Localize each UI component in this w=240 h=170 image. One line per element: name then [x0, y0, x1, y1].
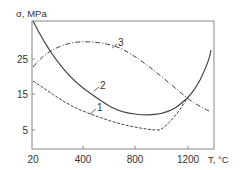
curve-2-label: 2: [100, 80, 106, 91]
y-tick-label-5: 5: [22, 125, 28, 136]
curve-2: [33, 21, 211, 115]
curve-1: [33, 81, 188, 130]
chart: 25 15 5 20 400 800 1200 σ, MPa T, °C 3 2…: [0, 0, 240, 170]
curve-1-leader: [90, 109, 96, 114]
x-axis-title: T, °C: [208, 154, 229, 165]
curve-1-label: 1: [97, 102, 103, 113]
y-axis-title: σ, MPa: [16, 8, 47, 19]
y-tick-label-15: 15: [17, 89, 29, 100]
y-tick-label-25: 25: [17, 54, 29, 65]
curve-2-leader: [94, 87, 99, 91]
x-tick-label-1200: 1200: [177, 154, 200, 165]
x-tick-label-20: 20: [27, 154, 39, 165]
x-tick-label-400: 400: [75, 154, 92, 165]
curve-3: [33, 42, 209, 111]
x-tick-label-800: 800: [127, 154, 144, 165]
curve-3-label: 3: [118, 37, 124, 48]
